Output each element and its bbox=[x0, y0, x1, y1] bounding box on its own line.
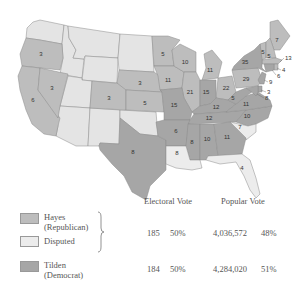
legend-label-tilden: Tilden (Democrat) bbox=[44, 260, 83, 280]
label-MI: 11 bbox=[207, 67, 214, 73]
territory-wyoming bbox=[82, 56, 118, 83]
territory-dakota bbox=[118, 34, 154, 72]
hayes-electoral-pct: 50% bbox=[170, 228, 186, 238]
state-DE bbox=[258, 86, 262, 92]
tilden-electoral-pct: 50% bbox=[170, 264, 186, 274]
legend-swatch-disputed bbox=[20, 236, 39, 247]
label-NY: 35 bbox=[242, 59, 249, 65]
label-GA: 11 bbox=[224, 134, 231, 140]
territory-montana bbox=[68, 26, 120, 59]
label-MO: 15 bbox=[171, 102, 178, 108]
election-map-1876: 3 6 3 3 3 5 5 11 10 21 11 22 29 7 5 5 8 … bbox=[0, 0, 305, 200]
label-PA: 29 bbox=[243, 76, 250, 82]
label-NC: 10 bbox=[244, 113, 251, 119]
label-NJ: 9 bbox=[269, 79, 273, 85]
label-WI: 10 bbox=[182, 59, 189, 65]
label-IA: 11 bbox=[165, 77, 172, 83]
brace-icon bbox=[97, 211, 105, 253]
label-MA: 13 bbox=[285, 55, 292, 61]
label-AL: 10 bbox=[204, 136, 211, 142]
state-FL bbox=[206, 154, 260, 198]
label-KY: 12 bbox=[213, 104, 220, 110]
label-CT: 6 bbox=[277, 73, 281, 79]
hayes-popular-votes: 4,036,572 bbox=[213, 228, 247, 238]
territory-new-mexico bbox=[88, 108, 120, 146]
state-RI bbox=[274, 64, 278, 70]
popular-vote-header: Popular Vote bbox=[221, 196, 265, 206]
label-OH: 22 bbox=[223, 85, 230, 91]
territory-arizona bbox=[56, 106, 90, 146]
legend-swatch-hayes bbox=[20, 213, 39, 224]
label-VA: 11 bbox=[243, 101, 250, 107]
state-MA bbox=[262, 58, 282, 64]
label-TN: 12 bbox=[206, 115, 213, 121]
legend-label-disputed: Disputed bbox=[44, 236, 75, 246]
label-RI: 4 bbox=[282, 67, 286, 73]
tilden-popular-pct: 51% bbox=[261, 264, 277, 274]
label-IN: 15 bbox=[203, 89, 210, 95]
legend-swatch-tilden bbox=[20, 261, 39, 272]
tilden-electoral-votes: 184 bbox=[147, 264, 160, 274]
tilden-popular-votes: 4,284,020 bbox=[213, 264, 247, 274]
label-IL: 21 bbox=[187, 89, 194, 95]
hayes-popular-pct: 48% bbox=[261, 228, 277, 238]
state-MI bbox=[202, 50, 222, 80]
hayes-electoral-votes: 185 bbox=[147, 228, 160, 238]
legend-label-hayes: Hayes (Republican) bbox=[44, 212, 88, 232]
electoral-vote-header: Electoral Vote bbox=[144, 196, 192, 206]
state-ME bbox=[270, 20, 290, 50]
